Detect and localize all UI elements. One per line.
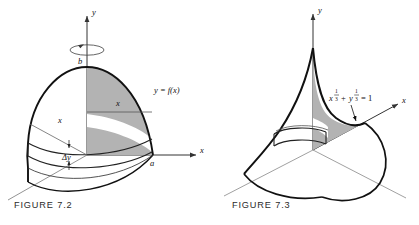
equation-base-x: x: [328, 93, 333, 103]
equation-x-exponent-denominator: 3: [335, 96, 338, 102]
figure-7-2-drawing: y x: [0, 0, 210, 225]
thickness-label: Δy: [61, 152, 71, 162]
top-radius-label: x: [115, 98, 120, 108]
figure-7-2: y x: [0, 0, 210, 225]
y-axis-label: y: [91, 7, 96, 17]
radius-line-upper: [30, 124, 87, 155]
equation-base-y: y: [348, 93, 353, 103]
equation-y-exponent-numerator: 1: [355, 88, 358, 94]
figure-7-3: y x: [210, 0, 419, 225]
radius-label: x: [57, 115, 62, 125]
equation-equals-one: = 1: [361, 93, 372, 103]
equation-plus-sign: +: [341, 93, 346, 103]
lower-bound-label: a: [150, 158, 154, 168]
equation-y-exponent-denominator: 3: [355, 96, 358, 102]
figure-7-2-caption: FIGURE 7.2: [14, 200, 73, 210]
solid-base-inner-curve: [28, 155, 153, 178]
solid-bottom-rim: [28, 155, 153, 191]
curve-label: y = f(x): [153, 85, 180, 95]
solid-bottom-rim: [244, 174, 322, 198]
upper-bound-label: b: [78, 56, 82, 66]
z-axis-line: [8, 155, 87, 200]
y-axis-label: y: [317, 5, 322, 15]
x-axis-label: x: [199, 145, 204, 155]
z-axis-line: [224, 150, 313, 196]
equation-pointer-arrow-icon: [351, 105, 356, 121]
figure-7-3-drawing: y x: [210, 0, 419, 225]
curve-equation-label: x 1 3 + y 1 3 = 1: [328, 88, 372, 103]
x-axis-label: x: [401, 95, 406, 105]
figure-plate: y x: [0, 0, 419, 225]
revolution-arrowhead-icon: [78, 44, 84, 48]
figure-7-3-caption: FIGURE 7.3: [232, 200, 291, 210]
z-axis-line-right: [313, 150, 406, 198]
equation-x-exponent-numerator: 1: [335, 88, 338, 94]
